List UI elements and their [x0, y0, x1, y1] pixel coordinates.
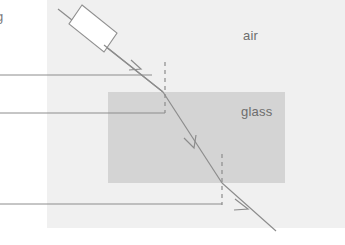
label-air: air	[243, 28, 258, 43]
label-glass: glass	[241, 104, 272, 119]
diagram-canvas: air glass g	[0, 0, 345, 245]
refraction-diagram-svg	[0, 0, 345, 245]
label-cutoff-fragment: g	[0, 9, 4, 24]
